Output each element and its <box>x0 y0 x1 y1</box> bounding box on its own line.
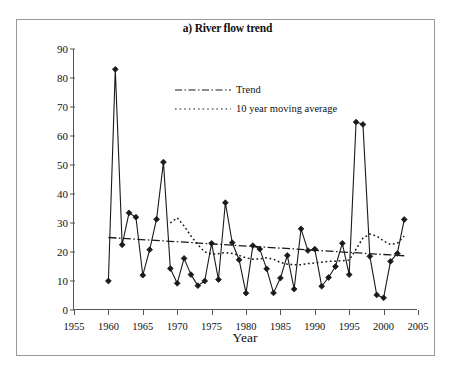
x-axis-tick-mark <box>418 310 419 315</box>
y-axis-tick-label: 50 <box>34 159 68 171</box>
x-axis-tick-mark <box>315 310 316 315</box>
data-point-marker <box>333 264 339 270</box>
data-point-marker <box>401 217 407 223</box>
data-point-marker <box>216 277 222 283</box>
data-point-marker <box>305 248 311 254</box>
data-point-marker <box>119 242 125 248</box>
y-axis-tick-label: 30 <box>34 217 68 229</box>
legend-key-dash-dot-icon <box>175 85 231 95</box>
y-axis-tick-label: 80 <box>34 72 68 84</box>
data-point-marker <box>353 119 359 125</box>
data-point-marker <box>250 243 256 249</box>
chart-legend: Trend 10 year moving average <box>175 80 337 118</box>
y-axis-tick-label: 60 <box>34 130 68 142</box>
data-point-marker <box>188 272 194 278</box>
x-axis-tick-mark <box>384 310 385 315</box>
y-axis-ticks: 0102030405060708090 <box>34 49 68 310</box>
y-axis-tick-label: 70 <box>34 101 68 113</box>
y-axis-tick-label: 20 <box>34 246 68 258</box>
legend-key-dotted-icon <box>175 104 231 114</box>
data-point-marker <box>174 280 180 286</box>
series-line <box>108 238 404 256</box>
data-point-marker <box>291 286 297 292</box>
data-point-marker <box>167 266 173 272</box>
data-point-marker <box>264 266 270 272</box>
figure-page: a) River flow trend River flows (m3 s-1)… <box>0 0 455 388</box>
data-point-marker <box>312 246 318 252</box>
data-point-marker <box>140 272 146 278</box>
x-axis-tick-mark <box>108 310 109 315</box>
data-point-marker <box>236 257 242 263</box>
data-point-marker <box>346 272 352 278</box>
data-point-marker <box>339 240 345 246</box>
legend-item-moving-average: 10 year moving average <box>175 99 337 118</box>
x-axis-tick-mark <box>177 310 178 315</box>
x-axis-tick-mark <box>143 310 144 315</box>
data-point-marker <box>147 247 153 253</box>
x-axis-tick-mark <box>74 310 75 315</box>
y-axis-tick-label: 0 <box>34 304 68 316</box>
data-point-marker <box>106 278 112 284</box>
y-axis-tick-label: 90 <box>34 43 68 55</box>
x-axis-tick-mark <box>212 310 213 315</box>
x-axis-tick-mark <box>349 310 350 315</box>
data-point-marker <box>243 290 249 296</box>
legend-label-trend: Trend <box>236 84 261 95</box>
data-point-marker <box>298 226 304 232</box>
y-axis-tick-label: 40 <box>34 188 68 200</box>
data-point-marker <box>222 200 228 206</box>
data-point-marker <box>161 159 167 165</box>
data-point-marker <box>278 275 284 281</box>
legend-item-trend: Trend <box>175 80 337 99</box>
x-axis-label: Year <box>73 330 417 346</box>
x-axis-tick-mark <box>280 310 281 315</box>
legend-label-moving-average: 10 year moving average <box>236 103 337 114</box>
x-axis-tick-mark <box>246 310 247 315</box>
y-axis-tick-label: 10 <box>34 275 68 287</box>
chart-title: a) River flow trend <box>0 22 455 34</box>
data-point-marker <box>360 122 366 128</box>
data-point-marker <box>381 295 387 301</box>
data-point-marker <box>181 255 187 261</box>
data-point-marker <box>112 66 118 72</box>
data-point-marker <box>271 290 277 296</box>
data-point-marker <box>374 292 380 298</box>
data-point-marker <box>126 210 132 216</box>
data-point-marker <box>154 216 160 222</box>
data-point-marker <box>133 214 139 220</box>
data-point-marker <box>284 253 290 259</box>
